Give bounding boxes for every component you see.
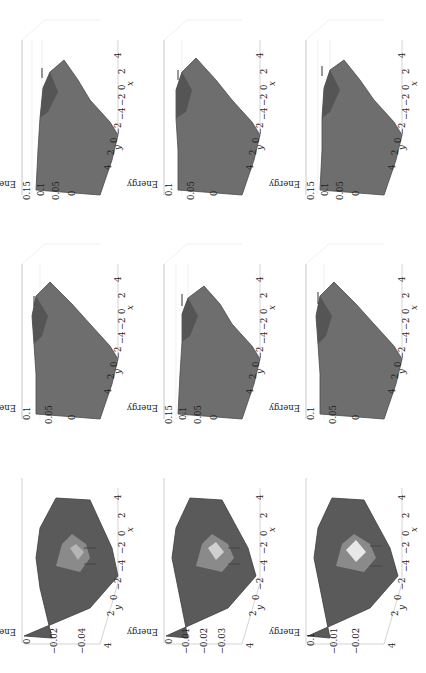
plot-r1c3: 0.15 0.1 0.05 0 Energy 4 2 y 0 −2 −4 −2 …: [284, 0, 426, 224]
x-tick: −4: [260, 559, 269, 572]
plot-r1c1: 0.15 0.1 0.05 0 Energy 4 2 y 0 −2 −4 −2 …: [0, 0, 142, 224]
y-tick: 4: [246, 643, 255, 648]
z-tick: 0.1: [165, 182, 174, 196]
y-tick: −2: [114, 577, 123, 590]
x-tick: −4: [260, 107, 269, 120]
z-tick: 0.05: [45, 405, 54, 424]
z-axis-label: Energy: [0, 180, 16, 189]
y-tick: 2: [391, 150, 400, 155]
z-tick: 0.15: [307, 181, 316, 200]
x-tick: 4: [114, 53, 123, 58]
y-axis-label: y: [256, 605, 265, 610]
x-tick: −2: [402, 93, 411, 106]
y-tick: 4: [246, 389, 255, 394]
z-tick: −0.02: [200, 628, 209, 654]
z-tick: 0: [23, 639, 32, 644]
y-tick: −2: [114, 122, 123, 135]
x-tick: 4: [398, 53, 407, 58]
z-tick: 0.05: [52, 181, 61, 200]
z-tick: −0.01: [182, 628, 191, 654]
z-tick: 0.05: [336, 181, 345, 200]
z-axis-label: Energy: [269, 180, 300, 189]
z-tick: −0.04: [78, 628, 87, 654]
x-axis-label: x: [410, 81, 419, 86]
plot-r2c2: 0.15 0.1 0.05 0 Energy 4 2 y 0 −2 −4 −2 …: [142, 224, 284, 448]
z-tick: 0.1: [37, 182, 46, 196]
x-tick: −2: [260, 541, 269, 554]
y-tick: 4: [104, 389, 113, 394]
x-tick: 2: [402, 293, 411, 298]
z-tick: −0.03: [218, 628, 227, 654]
y-axis-label: y: [256, 369, 265, 374]
plot-r3c2-difference: 0 −0.01 −0.02 −0.03 Energy 4 2 y 0 −2 −4…: [142, 448, 284, 672]
y-tick: 0: [110, 595, 119, 600]
y-tick: 0: [252, 595, 261, 600]
y-tick: 2: [107, 611, 116, 616]
x-tick: 2: [402, 513, 411, 518]
x-tick: −2: [260, 93, 269, 106]
x-tick: −4: [118, 331, 127, 344]
y-tick: 2: [249, 150, 258, 155]
y-tick: 0: [252, 362, 261, 367]
x-tick: 4: [398, 277, 407, 282]
z-tick: 0.1: [321, 182, 330, 196]
y-tick: 0: [394, 595, 403, 600]
x-tick: −4: [402, 331, 411, 344]
y-axis-label: y: [114, 145, 123, 150]
x-tick: −2: [118, 541, 127, 554]
z-axis-label: Energy: [0, 404, 16, 413]
z-tick: 0.05: [194, 405, 203, 424]
x-axis-label: x: [410, 527, 419, 532]
plot-r1c2: 0.1 0.05 0 Energy 4 2 y 0 −2 −4 −2 0 x 2…: [142, 0, 284, 224]
z-tick: 0.05: [329, 405, 338, 424]
z-tick: 0: [68, 191, 77, 196]
z-axis-label: Energy: [127, 628, 158, 637]
x-tick: −4: [118, 107, 127, 120]
x-tick: 2: [260, 69, 269, 74]
y-tick: −2: [256, 346, 265, 359]
y-tick: −2: [398, 346, 407, 359]
x-tick: −4: [118, 559, 127, 572]
x-axis-label: x: [410, 305, 419, 310]
x-tick: 2: [118, 293, 127, 298]
y-tick: −2: [114, 346, 123, 359]
y-tick: 2: [107, 150, 116, 155]
z-tick: 0: [352, 191, 361, 196]
z-tick: 0: [210, 191, 219, 196]
z-tick: 0.1: [307, 406, 316, 420]
z-axis-label: Energy: [0, 628, 16, 637]
y-tick: 0: [394, 362, 403, 367]
y-tick: 2: [391, 611, 400, 616]
y-axis-label: y: [398, 145, 407, 150]
x-axis-label: x: [126, 305, 135, 310]
x-axis-label: x: [268, 527, 277, 532]
x-axis-label: x: [268, 81, 277, 86]
x-tick: 4: [256, 53, 265, 58]
x-tick: −2: [402, 317, 411, 330]
y-tick: 4: [104, 165, 113, 170]
x-tick: 2: [260, 293, 269, 298]
y-axis-label: y: [398, 605, 407, 610]
x-axis-label: x: [126, 527, 135, 532]
y-tick: 2: [391, 374, 400, 379]
y-axis-label: y: [114, 369, 123, 374]
y-tick: 2: [249, 611, 258, 616]
x-tick: 2: [260, 513, 269, 518]
plot-r2c1: 0.1 0.05 0 Energy 4 2 y 0 −2 −4 −2 0 x 2…: [0, 224, 142, 448]
z-tick: 0: [68, 415, 77, 420]
y-tick: −2: [256, 122, 265, 135]
y-axis-label: y: [256, 145, 265, 150]
x-tick: 2: [118, 513, 127, 518]
y-tick: −2: [256, 577, 265, 590]
y-tick: 4: [388, 389, 397, 394]
y-tick: 0: [110, 362, 119, 367]
y-tick: 2: [107, 374, 116, 379]
z-tick: −0.01: [330, 628, 339, 654]
x-tick: −2: [118, 93, 127, 106]
z-tick: 0.1: [179, 406, 188, 420]
x-tick: −4: [402, 559, 411, 572]
z-tick: −0.02: [352, 628, 361, 654]
y-tick: 0: [110, 138, 119, 143]
x-axis-label: x: [268, 305, 277, 310]
y-tick: −2: [398, 577, 407, 590]
